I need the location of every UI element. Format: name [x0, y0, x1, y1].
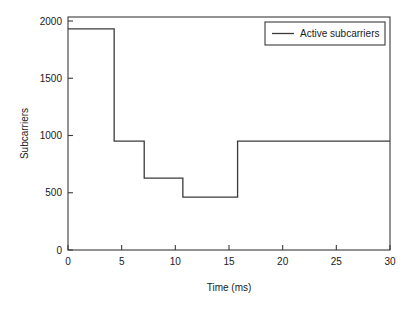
chart-legend: Active subcarriers [265, 22, 385, 45]
legend-label-active-subcarriers: Active subcarriers [300, 28, 379, 39]
x-tick-label-25: 25 [331, 256, 343, 267]
x-tick-label-15: 15 [223, 256, 235, 267]
y-tick-label-2000: 2000 [40, 16, 63, 27]
y-tick-label-1500: 1500 [40, 73, 63, 84]
x-axis-title: Time (ms) [207, 282, 252, 293]
x-tick-label-5: 5 [119, 256, 125, 267]
y-tick-label-0: 0 [56, 245, 62, 256]
y-axis-title: Subcarriers [19, 108, 30, 159]
x-tick-label-10: 10 [170, 256, 182, 267]
x-tick-label-0: 0 [65, 256, 71, 267]
y-tick-label-1000: 1000 [40, 130, 63, 141]
y-tick-label-500: 500 [45, 187, 62, 198]
line-chart: 0 500 1000 1500 2000 0 5 10 15 20 25 30 … [0, 0, 413, 311]
x-tick-label-30: 30 [384, 256, 396, 267]
x-tick-label-20: 20 [277, 256, 289, 267]
plot-background [68, 17, 390, 250]
chart-figure: 0 500 1000 1500 2000 0 5 10 15 20 25 30 … [0, 0, 413, 311]
